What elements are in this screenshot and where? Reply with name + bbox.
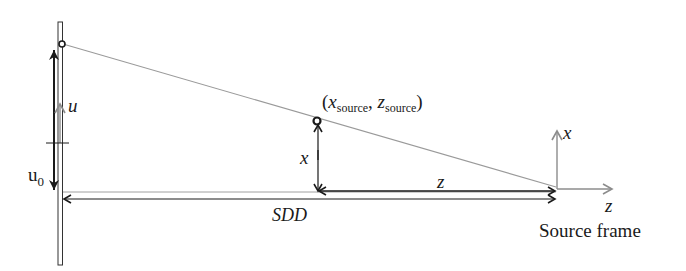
source-coordinates-label: (xsource, zsource) (322, 92, 423, 114)
z-source-sub: source (385, 101, 416, 115)
x-distance-label: x (300, 148, 308, 167)
x-source-sub: source (337, 101, 368, 115)
source-frame-caption: Source frame (539, 221, 641, 240)
z-source-var: z (378, 91, 385, 112)
x-source-var: x (328, 91, 336, 112)
u-axis-label: u (68, 96, 78, 115)
u0-main: u (28, 164, 38, 185)
u0-sub: 0 (38, 174, 45, 189)
u0-label: u0 (28, 165, 44, 188)
frame-x-axis-label: x (563, 123, 571, 142)
sdd-label: SDD (272, 206, 307, 224)
source-point (314, 118, 321, 125)
frame-z-axis-label: z (605, 196, 612, 215)
paren-close: ) (416, 91, 422, 112)
z-distance-label: z (437, 172, 444, 191)
detector-pixel-point (59, 41, 65, 47)
comma: , (368, 91, 373, 112)
projection-ray (63, 44, 556, 187)
diagram-canvas: u u0 (xsource, zsource) x z SDD x z Sour… (0, 0, 686, 271)
